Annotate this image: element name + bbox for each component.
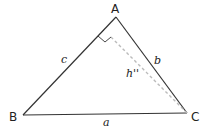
vertex-label-c: C bbox=[191, 110, 199, 124]
side-label-a: a bbox=[103, 116, 110, 129]
vertex-label-a: A bbox=[111, 2, 120, 16]
altitude-h-line bbox=[111, 37, 187, 113]
altitude-label-h: h'' bbox=[126, 67, 139, 80]
side-label-b: b bbox=[154, 54, 161, 67]
side-label-c: c bbox=[61, 53, 67, 66]
side-a-line bbox=[23, 113, 187, 115]
right-angle-marker bbox=[98, 30, 111, 42]
vertex-label-b: B bbox=[9, 110, 17, 124]
side-b-line bbox=[116, 17, 187, 113]
triangle-diagram: A B C c b a h'' bbox=[0, 0, 209, 133]
